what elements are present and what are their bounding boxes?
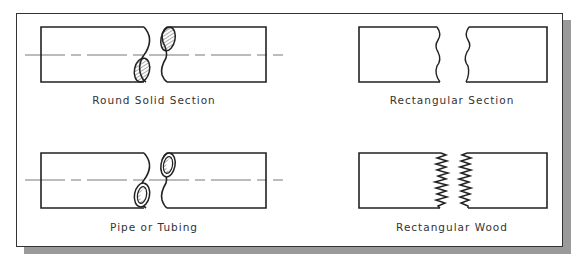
label-rectangular-section: Rectangular Section: [390, 94, 515, 106]
rectangular-wood-drawing: Rectangular Wood: [359, 153, 547, 233]
pipe-tubing-drawing: Pipe or Tubing: [25, 152, 283, 233]
label-rectangular-wood: Rectangular Wood: [396, 221, 508, 233]
round-solid-section-drawing: Round Solid Section: [25, 26, 283, 106]
label-round-solid: Round Solid Section: [92, 94, 216, 106]
label-pipe-tubing: Pipe or Tubing: [110, 221, 198, 233]
break-lines-diagram: Round Solid Section Rectangular Section …: [0, 0, 580, 263]
rectangular-section-drawing: Rectangular Section: [359, 27, 547, 106]
